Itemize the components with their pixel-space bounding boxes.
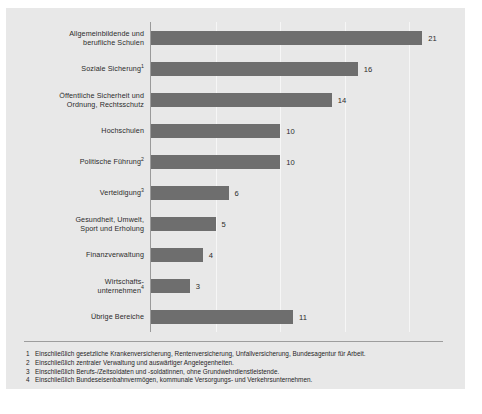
bar-value-label: 4: [203, 250, 213, 259]
bar-row: Gesundheit, Umwelt,Sport und Erholung5: [6, 208, 465, 239]
bar: [151, 155, 280, 169]
bar: [151, 124, 280, 138]
footnote-number: 4: [26, 376, 35, 385]
category-label: Finanzverwaltung: [6, 250, 144, 259]
category-label: Politische Führung2: [6, 157, 144, 166]
category-label: Hochschulen: [6, 126, 144, 135]
bar: [151, 62, 358, 76]
footnote-marker: 1: [141, 62, 144, 68]
bar-container: 21: [151, 31, 461, 45]
footnote-number: 3: [26, 368, 35, 377]
bar-container: 10: [151, 155, 461, 169]
footnote-item: 1Einschließlich gesetzliche Krankenversi…: [26, 350, 455, 359]
bar-container: 11: [151, 310, 461, 324]
bar-row: Öffentliche Sicherheit undOrdnung, Recht…: [6, 84, 465, 115]
bar-value-label: 10: [280, 157, 294, 166]
bar-container: 16: [151, 62, 461, 76]
bar: [151, 31, 422, 45]
footnote-text: Einschließlich zentraler Verwaltung und …: [35, 359, 455, 368]
category-label: Soziale Sicherung1: [6, 64, 144, 73]
bar-value-label: 5: [216, 219, 226, 228]
bar-value-label: 16: [358, 64, 372, 73]
footnote-divider: [24, 341, 443, 342]
bar-container: 4: [151, 248, 461, 262]
footnote-item: 4Einschließlich Bundeseisenbahnvermögen,…: [26, 376, 455, 385]
footnote-text: Einschließlich Bundeseisenbahnvermögen, …: [35, 376, 455, 385]
plot-area: Allgemeinbildende undberufliche Schulen2…: [6, 8, 465, 338]
bar: [151, 186, 229, 200]
category-label: Übrige Bereiche: [6, 312, 144, 321]
bar-row: Verteidigung36: [6, 177, 465, 208]
footnote-number: 2: [26, 359, 35, 368]
bar-value-label: 21: [422, 33, 436, 42]
bar: [151, 310, 293, 324]
category-label: Gesundheit, Umwelt,Sport und Erholung: [6, 214, 144, 233]
bar-row: Soziale Sicherung116: [6, 53, 465, 84]
bar-container: 5: [151, 217, 461, 231]
bar-row: Politische Führung210: [6, 146, 465, 177]
footnote-text: Einschließlich Berufs-/Zeitsoldaten und …: [35, 368, 455, 377]
bar-value-label: 14: [332, 95, 346, 104]
bar: [151, 279, 190, 293]
bar: [151, 248, 203, 262]
bar-row: Finanzverwaltung4: [6, 239, 465, 270]
bar-container: 10: [151, 124, 461, 138]
footnote-marker: 2: [141, 155, 144, 161]
bar-row: Allgemeinbildende undberufliche Schulen2…: [6, 22, 465, 53]
bar-value-label: 10: [280, 126, 294, 135]
footnote-item: 2Einschließlich zentraler Verwaltung und…: [26, 359, 455, 368]
footnote-marker: 3: [141, 186, 144, 192]
bar-value-label: 11: [293, 312, 307, 321]
footnote-marker: 4: [141, 284, 144, 290]
chart-figure: Allgemeinbildende undberufliche Schulen2…: [6, 8, 465, 389]
category-label: Wirtschafts-unternehmen4: [6, 276, 144, 295]
footnote-number: 1: [26, 350, 35, 359]
footnote-text: Einschließlich gesetzliche Krankenversic…: [35, 350, 455, 359]
bar-value-label: 3: [190, 281, 200, 290]
bar: [151, 217, 216, 231]
bar-value-label: 6: [229, 188, 239, 197]
category-label: Öffentliche Sicherheit undOrdnung, Recht…: [6, 90, 144, 109]
bar-rows: Allgemeinbildende undberufliche Schulen2…: [6, 22, 465, 332]
bar: [151, 93, 332, 107]
bar-row: Hochschulen10: [6, 115, 465, 146]
bar-container: 14: [151, 93, 461, 107]
bar-container: 3: [151, 279, 461, 293]
category-label: Verteidigung3: [6, 188, 144, 197]
bar-row: Übrige Bereiche11: [6, 301, 465, 332]
category-label: Allgemeinbildende undberufliche Schulen: [6, 28, 144, 47]
bar-row: Wirtschafts-unternehmen43: [6, 270, 465, 301]
footnote-list: 1Einschließlich gesetzliche Krankenversi…: [26, 350, 455, 385]
footnote-item: 3Einschließlich Berufs-/Zeitsoldaten und…: [26, 368, 455, 377]
bar-container: 6: [151, 186, 461, 200]
